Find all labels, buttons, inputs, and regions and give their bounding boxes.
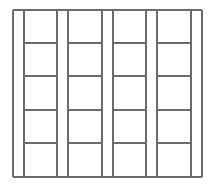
- outer-frame: [13, 10, 202, 177]
- grid-drawing: [0, 0, 216, 189]
- column-1: [24, 10, 57, 177]
- column-4: [157, 10, 191, 177]
- grid-diagram: [0, 0, 216, 189]
- column-group: [24, 10, 191, 177]
- column-3: [113, 10, 146, 177]
- column-2: [68, 10, 102, 177]
